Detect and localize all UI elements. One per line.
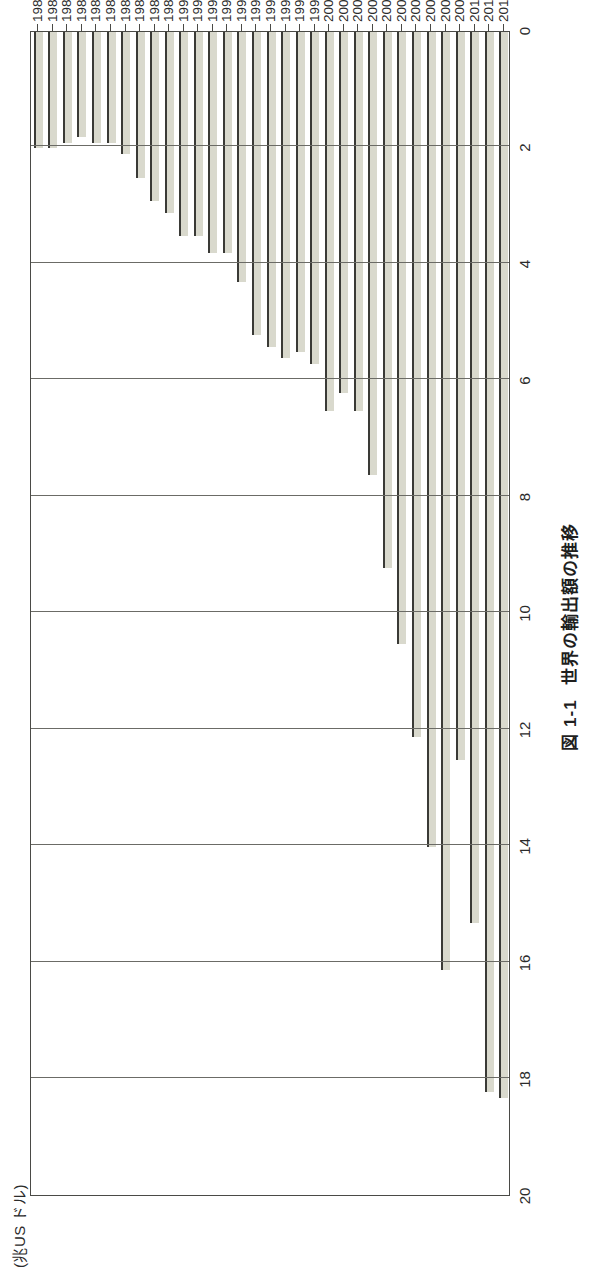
bar-row [354,32,363,1197]
bar-row [136,32,145,1197]
year-label-2003: 2003 [364,0,379,22]
year-label-2002: 2002 [350,0,365,22]
year-label-1984: 1984 [88,0,103,22]
category-tick-1987 [139,24,140,31]
bar-row [150,32,159,1197]
bar-row [48,32,57,1197]
year-label-1999: 1999 [306,0,321,22]
year-label-1980: 1980 [30,0,45,22]
category-tick-1994 [241,24,242,31]
bar-2006 [412,32,421,737]
bar-row [325,32,334,1197]
category-tick-2012 [503,24,504,31]
value-tick-label-12: 12 [516,722,533,739]
category-tick-1981 [52,24,53,31]
figure-page: (兆US ドル) 20181614121086420 図 1-1世界の輸出額の推… [0,0,600,1274]
value-tick-label-8: 8 [516,493,533,501]
year-label-2007: 2007 [423,0,438,22]
bar-1993 [223,32,232,253]
bar-1982 [63,32,72,143]
bar-1997 [281,32,290,358]
value-tick-label-14: 14 [516,838,533,855]
category-tick-1988 [154,24,155,31]
bar-1994 [237,32,246,282]
year-label-1994: 1994 [233,0,248,22]
year-label-1998: 1998 [292,0,307,22]
value-tick-label-16: 16 [516,955,533,972]
category-tick-2009 [459,24,460,31]
bar-2009 [456,32,465,760]
value-tick-label-4: 4 [516,260,533,268]
gridline-12 [31,728,509,729]
bar-row [456,32,465,1197]
bar-2002 [354,32,363,411]
bar-row [121,32,130,1197]
value-tick-label-0: 0 [516,27,533,35]
plot-area [30,31,510,1196]
category-tick-1983 [81,24,82,31]
year-label-1991: 1991 [190,0,205,22]
bar-row [194,32,203,1197]
bar-1981 [48,32,57,149]
bar-row [427,32,436,1197]
bar-1990 [179,32,188,236]
value-tick-label-20: 20 [516,1188,533,1205]
figure-caption-text: 世界の輸出額の推移 [561,523,580,685]
category-tick-1997 [285,24,286,31]
rotated-figure-container: (兆US ドル) 20181614121086420 図 1-1世界の輸出額の推… [0,0,600,1274]
year-label-1996: 1996 [263,0,278,22]
bar-2010 [470,32,479,923]
bar-row [339,32,348,1197]
category-tick-1990 [183,24,184,31]
year-label-2011: 2011 [481,0,496,22]
bar-row [208,32,217,1197]
bar-row [368,32,377,1197]
figure-caption: 図 1-1世界の輸出額の推移 [556,0,581,1274]
bar-2004 [383,32,392,568]
bar-2003 [368,32,377,475]
bar-1988 [150,32,159,201]
bar-row [92,32,101,1197]
gridline-8 [31,495,509,496]
bar-1991 [194,32,203,236]
bar-row [179,32,188,1197]
category-tick-2002 [357,24,358,31]
year-label-1995: 1995 [248,0,263,22]
year-label-1986: 1986 [117,0,132,22]
gridline-10 [31,612,509,613]
bar-1986 [121,32,130,154]
year-label-2009: 2009 [452,0,467,22]
value-tick-label-2: 2 [516,143,533,151]
bar-1989 [165,32,174,213]
category-tick-1996 [270,24,271,31]
bar-2007 [427,32,436,848]
year-label-1992: 1992 [204,0,219,22]
bar-1983 [77,32,86,137]
bar-row [77,32,86,1197]
bar-row [485,32,494,1197]
bar-row [107,32,116,1197]
gridline-18 [31,1078,509,1079]
year-label-1987: 1987 [132,0,147,22]
bar-row [412,32,421,1197]
bar-row [441,32,450,1197]
category-tick-1989 [168,24,169,31]
year-label-2005: 2005 [393,0,408,22]
bar-2012 [499,32,508,1098]
axis-unit-label: (兆US ドル) [8,1184,29,1268]
year-label-1997: 1997 [277,0,292,22]
bar-series [31,32,509,1195]
category-tick-2001 [343,24,344,31]
bar-row [252,32,261,1197]
bar-1996 [267,32,276,347]
category-tick-1984 [95,24,96,31]
year-label-1985: 1985 [103,0,118,22]
bar-1998 [296,32,305,352]
bar-1987 [136,32,145,178]
year-label-2012: 2012 [495,0,510,22]
year-label-1989: 1989 [161,0,176,22]
category-tick-2011 [488,24,489,31]
bar-row [63,32,72,1197]
bar-2008 [441,32,450,970]
bar-2011 [485,32,494,1092]
